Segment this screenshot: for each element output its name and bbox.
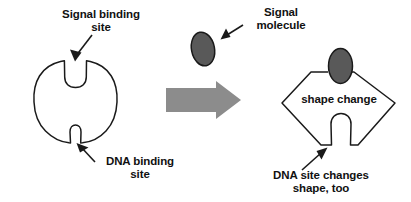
arrow-to-signal-molecule xyxy=(221,25,244,40)
arrow-to-signal-binding-site xyxy=(70,35,92,62)
signal-molecule-ellipse xyxy=(188,30,217,68)
signal-molecule-bound-ellipse xyxy=(329,49,353,84)
diagram-canvas: Signal binding site DNA binding site Sig… xyxy=(0,0,411,202)
label-signal-binding-site: Signal binding site xyxy=(46,8,156,33)
label-dna-site-changes: DNA site changes shape, too xyxy=(251,169,391,194)
label-shape-change: shape change xyxy=(282,93,396,106)
transition-arrow xyxy=(166,81,241,119)
label-signal-molecule: Signal molecule xyxy=(245,6,317,31)
receptor-protein-unbound xyxy=(34,61,117,143)
arrow-to-dna-site-changed xyxy=(302,148,328,171)
label-dna-binding-site: DNA binding site xyxy=(92,155,188,180)
